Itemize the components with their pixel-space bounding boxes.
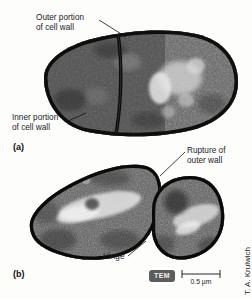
figure-container: Outer portion of cell wall Inner portion… [0, 0, 252, 299]
tem-technique-badge: TEM [149, 270, 175, 282]
scale-bar-label: 0.5 µm [182, 278, 220, 285]
annotation-rupture-of-outer-wall: Rupture of outer wall [187, 146, 225, 165]
leader-rupture [160, 152, 185, 176]
leader-outer-wall [99, 20, 126, 37]
annotation-hinge: Hinge [103, 252, 125, 262]
scale-bar: 0.5 µm [182, 277, 220, 285]
photo-credit: T. A. Krulwich [243, 247, 252, 295]
panel-b-cells [26, 160, 230, 266]
annotation-inner-portion-of-cell-wall: Inner portion of cell wall [12, 113, 58, 132]
panel-label-b: (b) [13, 269, 25, 279]
annotation-outer-portion-of-cell-wall: Outer portion of cell wall [36, 13, 84, 32]
panel-label-a: (a) [13, 142, 24, 152]
panel-a-cell [40, 26, 244, 142]
